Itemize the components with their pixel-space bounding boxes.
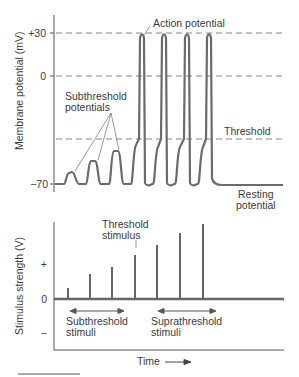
resting-potential-label-2: potential — [236, 200, 276, 211]
tick-plus: + — [13, 258, 47, 270]
threshold-label: Threshold — [224, 126, 271, 137]
tick-zero: 0 — [12, 70, 46, 82]
time-arrow-icon — [165, 360, 191, 365]
reference-dashed-lines — [56, 33, 285, 139]
subthreshold-stimuli-label-2: stimuli — [66, 327, 96, 338]
top-y-axis-label: Membrane potential (mV) — [13, 32, 25, 150]
tick-plus30: +30 — [12, 27, 46, 39]
time-axis-label: Time — [137, 356, 160, 367]
tick-zero-stimulus: 0 — [13, 293, 47, 305]
action-potential-label: Action potential — [153, 18, 225, 29]
subthreshold-potentials-label-2: potentials — [65, 102, 110, 113]
tick-minus: − — [13, 327, 47, 339]
threshold-stimulus-label-2: stimulus — [102, 230, 141, 241]
suprathreshold-stimuli-label-2: stimuli — [151, 327, 181, 338]
stimulus-trace — [54, 224, 284, 299]
top-axis — [50, 15, 54, 192]
range-arrows — [70, 309, 216, 314]
bottom-y-axis-label: Stimulus strength (V) — [13, 237, 25, 335]
tick-minus70: −70 — [14, 178, 48, 190]
